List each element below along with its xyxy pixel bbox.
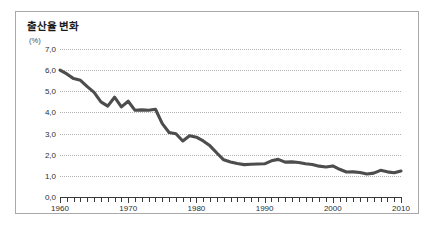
x-axis-tick	[169, 197, 170, 202]
x-axis-tick	[210, 197, 211, 202]
x-axis-tick	[387, 197, 388, 202]
x-axis-tick	[155, 197, 156, 202]
x-axis-tick	[176, 197, 177, 202]
x-axis-tick	[326, 197, 327, 202]
series-line-birth-rate	[60, 49, 401, 197]
y-axis-tick-label: 3,0	[16, 129, 56, 138]
x-axis-tick	[258, 197, 259, 202]
x-axis-tick	[87, 197, 88, 202]
x-axis-tick	[299, 197, 300, 202]
y-axis-tick-label: 0,0	[16, 193, 56, 202]
x-axis-tick-label: 2000	[324, 204, 342, 213]
y-axis-tick-label: 5,0	[16, 87, 56, 96]
x-axis-tick-label: 1960	[51, 204, 69, 213]
x-axis-tick	[108, 197, 109, 202]
plot-area	[60, 49, 401, 197]
x-axis-tick	[94, 197, 95, 202]
chart-figure: 출산율 변화 (%) 7,06,05,04,03,02,01,00,0 1960…	[0, 0, 434, 231]
y-axis-tick-label: 7,0	[16, 45, 56, 54]
x-axis-tick	[121, 197, 122, 202]
x-axis-tick	[367, 197, 368, 202]
x-axis-tick	[401, 197, 402, 203]
x-axis-tick	[231, 197, 232, 202]
x-axis-tick	[353, 197, 354, 202]
x-axis-tick	[394, 197, 395, 202]
x-axis-tick-label: 1980	[187, 204, 205, 213]
x-axis-tick	[67, 197, 68, 202]
x-axis-tick	[74, 197, 75, 202]
chart-title: 출산율 변화	[27, 18, 79, 33]
x-axis-tick	[340, 197, 341, 202]
y-axis-tick-label: 4,0	[16, 108, 56, 117]
x-axis-tick	[217, 197, 218, 202]
x-axis-tick	[60, 197, 61, 203]
x-axis-tick	[203, 197, 204, 202]
x-axis-tick	[265, 197, 266, 203]
y-axis-tick-label: 2,0	[16, 150, 56, 159]
x-axis-tick	[196, 197, 197, 203]
x-axis-tick-label: 1970	[119, 204, 137, 213]
x-axis-tick	[360, 197, 361, 202]
x-axis-tick	[128, 197, 129, 203]
x-axis-tick	[244, 197, 245, 202]
x-axis-tick	[312, 197, 313, 202]
x-axis-tick	[135, 197, 136, 202]
x-axis-tick	[224, 197, 225, 202]
x-axis-tick	[149, 197, 150, 202]
x-axis-tick	[306, 197, 307, 202]
x-axis-labels: 196019701980199020002010	[16, 204, 420, 218]
x-axis-tick-label: 1990	[256, 204, 274, 213]
x-axis-tick	[381, 197, 382, 202]
y-axis-tick-label: 6,0	[16, 66, 56, 75]
x-axis-tick	[319, 197, 320, 202]
x-axis-tick	[278, 197, 279, 202]
y-axis-labels: 7,06,05,04,03,02,01,00,0	[16, 49, 56, 197]
chart-frame: 출산율 변화 (%) 7,06,05,04,03,02,01,00,0 1960…	[15, 11, 419, 214]
x-axis-tick	[142, 197, 143, 202]
x-axis-tick	[183, 197, 184, 202]
x-axis-tick	[271, 197, 272, 202]
x-axis-tick	[285, 197, 286, 202]
x-axis-tick	[237, 197, 238, 202]
y-axis-tick-label: 1,0	[16, 171, 56, 180]
x-axis-tick	[115, 197, 116, 202]
x-axis-tick	[80, 197, 81, 202]
x-axis-tick	[251, 197, 252, 202]
x-axis-tick	[292, 197, 293, 202]
x-axis-tick	[333, 197, 334, 203]
x-axis-tick	[101, 197, 102, 202]
x-axis-tick-label: 2010	[392, 204, 410, 213]
x-axis-tick	[190, 197, 191, 202]
x-axis-tick	[374, 197, 375, 202]
x-axis-tick	[346, 197, 347, 202]
x-axis-tick	[162, 197, 163, 202]
